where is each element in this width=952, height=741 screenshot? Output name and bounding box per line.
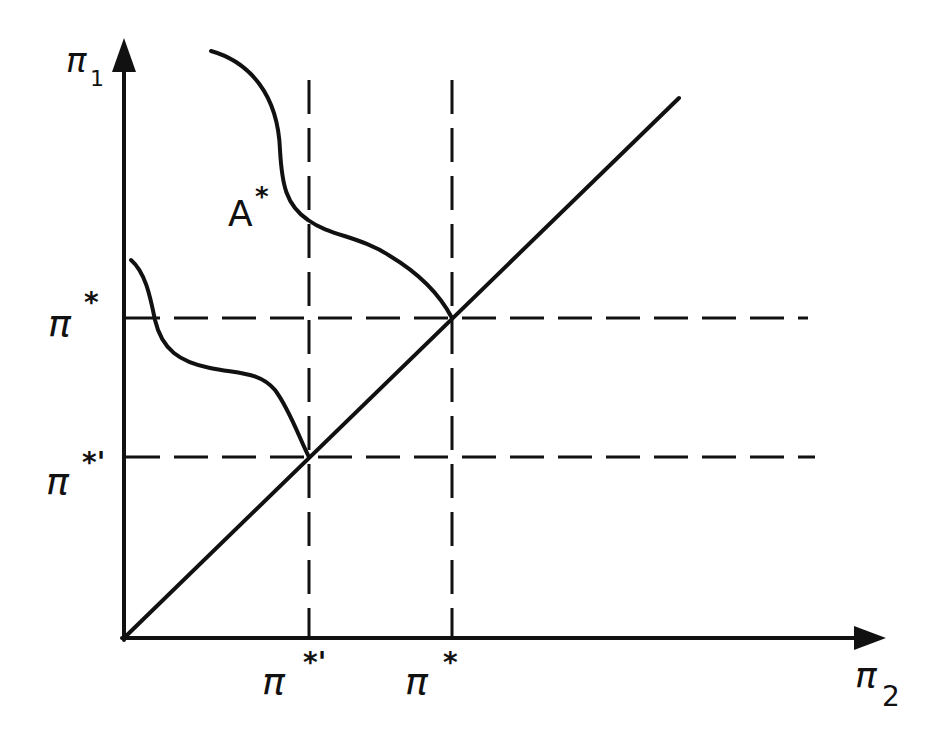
curve-a-star xyxy=(211,51,452,318)
y-axis-label: π 1 xyxy=(66,40,104,91)
dashed-guides xyxy=(126,80,815,636)
svg-text:1: 1 xyxy=(90,66,104,91)
svg-text:π: π xyxy=(405,659,429,703)
y-axis-arrow-icon xyxy=(112,38,136,72)
svg-text:A: A xyxy=(228,193,253,234)
diagram: π 1 π 2 π * π *' π *' π * A * xyxy=(0,0,952,741)
svg-text:π: π xyxy=(262,659,286,703)
svg-text:*': *' xyxy=(82,446,105,479)
svg-text:π: π xyxy=(66,40,87,80)
svg-text:*: * xyxy=(255,182,269,212)
axes xyxy=(122,68,860,640)
svg-text:*: * xyxy=(84,286,99,319)
svg-text:2: 2 xyxy=(882,680,900,713)
x-axis-arrow-icon xyxy=(854,626,886,650)
svg-text:π: π xyxy=(855,655,878,696)
y-tick-pi-star-prime: π *' xyxy=(46,446,105,503)
svg-text:π: π xyxy=(46,459,70,503)
x-axis-label: π 2 xyxy=(855,655,900,713)
curve-label-a-star: A * xyxy=(228,182,269,234)
x-tick-pi-star-prime: π *' xyxy=(262,646,326,703)
svg-text:*': *' xyxy=(303,646,326,679)
svg-text:*: * xyxy=(443,646,458,679)
x-tick-pi-star: π * xyxy=(405,646,458,703)
svg-text:π: π xyxy=(48,301,72,345)
y-tick-pi-star: π * xyxy=(48,286,99,345)
curve-lower xyxy=(131,260,309,457)
